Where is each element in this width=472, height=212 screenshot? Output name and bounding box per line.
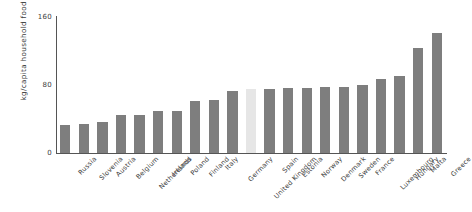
y-tick-label: 160 [38,13,52,21]
bar-slot [302,17,312,153]
bar-slot [172,17,182,153]
bar[interactable] [227,91,237,153]
bar-slot [116,17,126,153]
bar[interactable] [357,85,367,153]
bar[interactable] [264,89,274,153]
y-tick-label: 80 [42,81,52,89]
bar[interactable] [153,111,163,154]
bar[interactable] [209,100,219,153]
bar[interactable] [172,111,182,154]
bar-slot [432,17,442,153]
x-tick-label: Russia [77,155,99,177]
bar-slot [357,17,367,153]
bar-slot [209,17,219,153]
bar-slot [60,17,70,153]
bar[interactable] [432,33,442,153]
bar[interactable] [376,79,386,153]
bar-slot [394,17,404,153]
bar[interactable] [116,115,126,153]
x-tick-label: Greece [449,155,472,178]
bars-layer [56,17,446,153]
x-tick-label: Ireland [170,155,193,178]
bar[interactable] [339,87,349,153]
bar[interactable] [394,76,404,153]
bar[interactable] [246,89,256,153]
bar-slot [376,17,386,153]
bar-slot [283,17,293,153]
bar[interactable] [283,88,293,153]
bar-slot [134,17,144,153]
bar-slot [339,17,349,153]
bar[interactable] [97,122,107,153]
bar-slot [413,17,423,153]
bar[interactable] [60,125,70,153]
bar-slot [190,17,200,153]
bar-slot [153,17,163,153]
bar-slot [264,17,274,153]
bar[interactable] [134,115,144,153]
bar-slot [97,17,107,153]
bar-slot [246,17,256,153]
bar[interactable] [413,48,423,153]
bar[interactable] [79,124,89,153]
x-axis-tick-labels: RussiaSloveniaAustriaBelgiumNetherlandsI… [56,155,446,212]
bar-slot [320,17,330,153]
bar[interactable] [302,88,312,153]
x-tick-label: Germany [247,155,275,183]
bar[interactable] [320,87,330,153]
y-axis-title: kg/capita household food waste [17,0,31,108]
y-tick-label: 0 [47,149,52,157]
bar[interactable] [190,101,200,153]
bar-slot [79,17,89,153]
x-tick-label: Belgium [134,155,160,181]
plot-area: 080160 [56,17,446,153]
bar-slot [227,17,237,153]
